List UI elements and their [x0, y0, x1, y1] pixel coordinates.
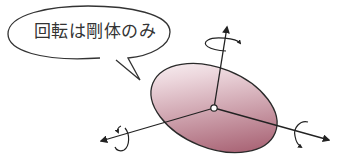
center-point — [211, 105, 217, 111]
rotation-arrow-icon-right — [295, 122, 308, 147]
rotation-arrow-icon-vertical — [205, 38, 240, 51]
rotation-arrow-icon-left — [115, 126, 129, 151]
speech-bubble-text: 回転は剛体のみ — [20, 17, 170, 42]
